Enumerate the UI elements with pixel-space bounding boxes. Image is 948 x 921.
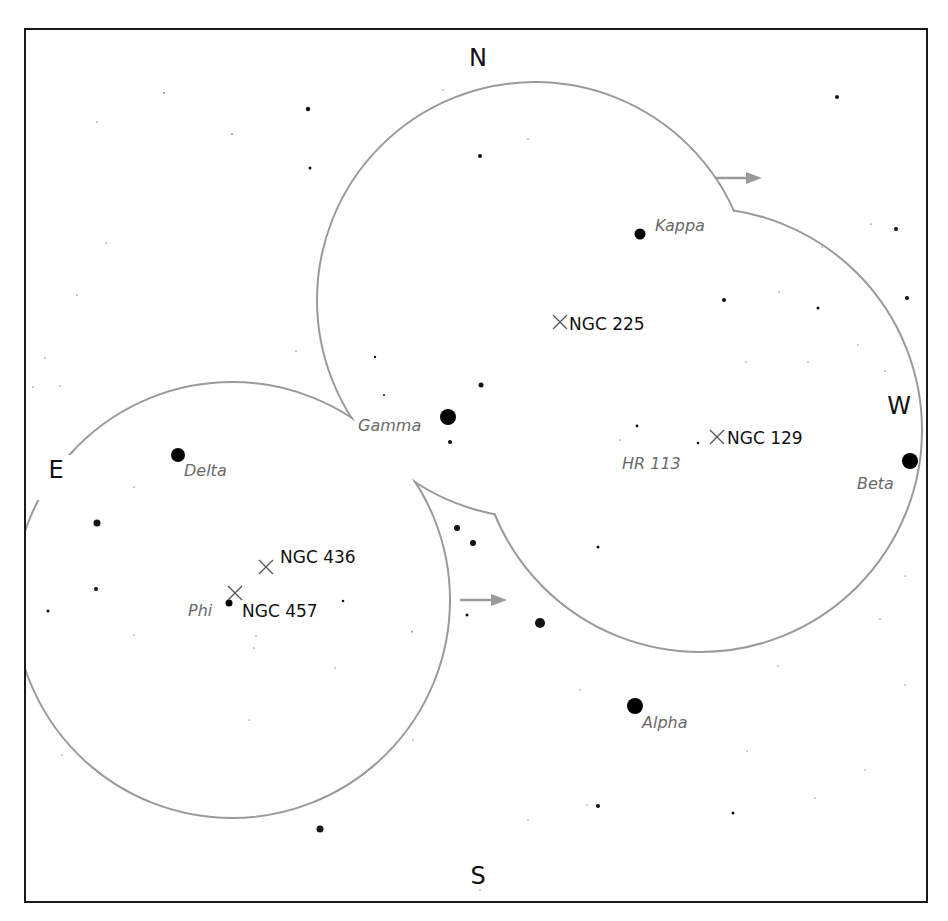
star-dot: [596, 804, 600, 808]
star-alpha: [627, 698, 643, 714]
star-dot: [905, 685, 906, 686]
star-beta: [902, 453, 918, 469]
star-dot: [309, 167, 312, 170]
star-dot: [94, 587, 98, 591]
label-gamma: Gamma: [358, 416, 421, 435]
star-dot: [62, 755, 63, 756]
star-dot: [383, 394, 385, 396]
star-dot: [466, 614, 469, 617]
star-dot: [879, 618, 880, 619]
star-dot: [746, 362, 747, 363]
star-dot: [619, 439, 620, 440]
star-chart: N S E W Kappa Gamma Delta Beta Alpha Phi…: [0, 0, 948, 921]
label-kappa: Kappa: [655, 216, 705, 235]
dso-cross-icon: [553, 315, 567, 329]
star-dot: [905, 576, 906, 577]
star-dot: [443, 90, 444, 91]
star-dot: [870, 223, 871, 224]
arrowhead-icon: [746, 172, 762, 184]
star-hr-113: [697, 442, 699, 444]
compass-south: S: [470, 862, 485, 890]
star-dot: [412, 631, 413, 632]
label-delta: Delta: [184, 461, 227, 480]
star-dot: [96, 121, 97, 122]
star-dot: [342, 600, 345, 603]
label-hr-113: HR 113: [622, 454, 681, 473]
field-circle: [317, 82, 753, 518]
field-circle: [478, 208, 922, 652]
star-dot: [778, 666, 779, 667]
star-dot: [134, 635, 135, 636]
star-dot: [747, 751, 748, 752]
star-dot: [94, 520, 101, 527]
field-circle: [14, 382, 450, 818]
star-dot: [732, 812, 735, 815]
star-dot: [527, 138, 528, 139]
star-dot: [815, 798, 816, 799]
star-dot: [479, 383, 484, 388]
compass-north: N: [469, 44, 487, 72]
star-kappa: [635, 229, 646, 240]
star-dot: [59, 385, 60, 386]
star-gamma: [440, 409, 456, 425]
compass-west: W: [887, 392, 911, 420]
label-beta: Beta: [857, 474, 894, 493]
star-dot: [32, 386, 33, 387]
compass-east: E: [48, 456, 63, 484]
star-dot: [249, 720, 250, 721]
arrowhead-icon: [491, 594, 507, 606]
star-dot: [778, 291, 779, 292]
star-dot: [587, 805, 588, 806]
dso-cross-icon: [228, 586, 242, 600]
star-dot: [295, 350, 296, 351]
star-phi: [226, 600, 233, 607]
star-dot: [865, 770, 866, 771]
star-dot: [597, 546, 600, 549]
star-dot: [884, 370, 885, 371]
background-stars: [32, 90, 909, 891]
dso-cross-icon: [259, 560, 273, 574]
star-dot: [808, 362, 809, 363]
star-dot: [580, 690, 581, 691]
star-dot: [817, 307, 820, 310]
label-ngc-129: NGC 129: [727, 428, 803, 448]
star-dot: [44, 357, 45, 358]
star-dot: [821, 246, 822, 247]
star-dot: [528, 820, 529, 821]
star-dot: [454, 525, 460, 531]
star-delta: [171, 448, 185, 462]
field-of-view-outline: [14, 82, 922, 818]
star-dot: [470, 540, 476, 546]
star-dot: [335, 668, 336, 669]
star-dot: [306, 107, 310, 111]
star-dot: [905, 296, 909, 300]
star-dot: [478, 154, 482, 158]
star-dot: [133, 486, 134, 487]
star-dot: [894, 227, 898, 231]
star-dot: [413, 740, 414, 741]
label-phi: Phi: [188, 601, 213, 620]
star-dot: [253, 647, 254, 648]
label-alpha: Alpha: [641, 713, 688, 732]
motion-arrows: [460, 172, 762, 606]
label-ngc-457: NGC 457: [242, 601, 318, 621]
star-dot: [76, 294, 77, 295]
star-dot: [231, 133, 232, 134]
star-dot: [535, 618, 545, 628]
star-dot: [835, 95, 839, 99]
star-dot: [255, 635, 256, 636]
label-ngc-225: NGC 225: [569, 314, 645, 334]
star-dot: [448, 440, 452, 444]
star-dot: [47, 610, 50, 613]
star-dot: [857, 344, 858, 345]
star-dot: [317, 826, 324, 833]
named-stars: [171, 229, 918, 715]
star-dot: [105, 242, 106, 243]
star-dot: [163, 92, 164, 93]
dso-cross-icon: [710, 430, 724, 444]
label-ngc-436: NGC 436: [280, 547, 356, 567]
star-dot: [722, 298, 726, 302]
star-dot: [412, 632, 413, 633]
star-dot: [374, 356, 376, 358]
star-dot: [636, 425, 639, 428]
